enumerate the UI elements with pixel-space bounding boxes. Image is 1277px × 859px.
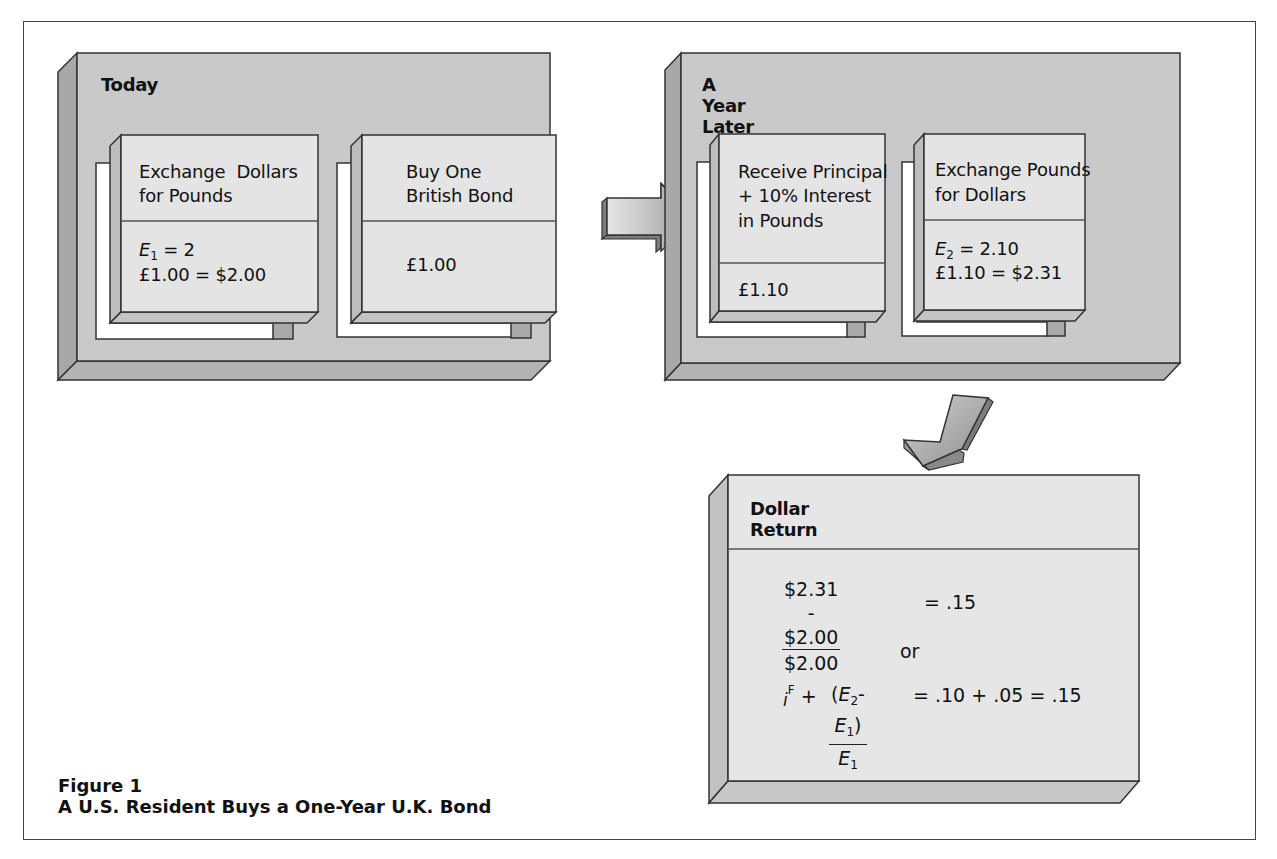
- figure-title: A U.S. Resident Buys a One-Year U.K. Bon…: [58, 796, 491, 817]
- subscript: 1: [850, 758, 858, 772]
- superscript-f: F: [788, 683, 795, 697]
- formula1-fraction: $2.31 - $2.00 $2.00: [782, 577, 840, 676]
- formula2-fraction: (E2- E1) E1: [829, 682, 867, 778]
- formula2-denominator: E1: [829, 745, 867, 778]
- figure-label: Figure 1: [58, 775, 491, 796]
- var-e1: E: [838, 747, 850, 769]
- formula1-result: = .15: [924, 591, 976, 613]
- var-e1: E: [834, 714, 846, 736]
- formula2-prefix: iF +: [783, 683, 817, 710]
- panel-dollar-return-title: Dollar Return: [750, 498, 817, 540]
- figure-caption: Figure 1 A U.S. Resident Buys a One-Year…: [58, 775, 491, 817]
- minus-sign: -: [858, 683, 865, 705]
- paren-close: ): [854, 714, 861, 736]
- formula2-numerator: (E2- E1): [829, 682, 867, 745]
- formula-connector: or: [900, 640, 919, 662]
- panel-dollar-return-3d-shape: [0, 0, 1277, 859]
- formula1-denominator: $2.00: [782, 650, 840, 676]
- plus-sign: +: [801, 685, 817, 707]
- formula2-result: = .10 + .05 = .15: [913, 684, 1082, 706]
- formula1-numerator: $2.31 - $2.00: [782, 577, 840, 650]
- subscript: 2: [850, 694, 858, 708]
- var-e2: E: [838, 683, 850, 705]
- subscript: 1: [846, 725, 854, 739]
